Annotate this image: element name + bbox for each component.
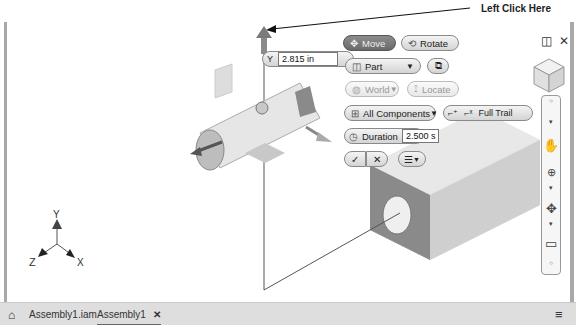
remove-trail-icon[interactable]: ⌐ˣ (464, 108, 472, 118)
tab-assembly1[interactable]: Assembly1 ✕ (97, 306, 161, 325)
panel-icon[interactable]: ◫ (541, 34, 552, 48)
world-dropdown[interactable]: ◍ World ▼ (345, 81, 399, 97)
components-dropdown[interactable]: ⊞ All Components ▼ (344, 105, 436, 121)
document-tab-bar: ⌂ Assembly1.iam Assembly1 ✕ ≡ (0, 302, 576, 325)
chevron-down-icon: ▼ (406, 62, 414, 71)
add-trail-icon[interactable]: ⌐⁺ (448, 108, 458, 118)
pan-icon[interactable]: ✋ (542, 138, 560, 153)
zoom-icon[interactable]: ⊕ (542, 166, 560, 179)
close-icon[interactable]: ✕ (559, 34, 569, 48)
chevron-down-icon[interactable]: ▾ (542, 220, 560, 228)
svg-text:Y: Y (53, 209, 60, 220)
select-other-button[interactable]: ⧉ (427, 58, 449, 74)
window-controls: ◫ ✕ (541, 34, 569, 48)
clock-icon: ◷ (349, 131, 358, 142)
axis-label: Y (267, 54, 273, 64)
navigation-bar: ○ ▾ ✋ ⊕ ▾ ✥ ▾ ▭ ○ (541, 95, 561, 275)
3d-scene: Y Z X (0, 0, 576, 325)
close-tab-icon[interactable]: ✕ (153, 309, 161, 320)
world-icon: ◍ (352, 84, 361, 95)
x-drag-arrow[interactable] (306, 127, 332, 142)
orbit-icon[interactable]: ✥ (542, 201, 560, 216)
callout-arrow (272, 8, 470, 29)
trail-group: ⌐⁺ ⌐ˣ Full Trail (443, 105, 533, 121)
cancel-button[interactable]: ✕ (366, 151, 388, 167)
rotate-icon: ⟲ (408, 38, 416, 49)
options-dropdown[interactable]: ☰▼ (398, 151, 426, 167)
check-icon: ✓ (351, 154, 359, 165)
move-icon: ✥ (350, 38, 358, 49)
part-dropdown[interactable]: ◫ Part ▼ (345, 58, 421, 74)
viewcube[interactable] (531, 57, 567, 95)
home-icon[interactable]: ⌂ (8, 306, 15, 324)
svg-text:X: X (77, 257, 84, 268)
navbar-options-icon[interactable]: ○ (547, 98, 555, 104)
locate-icon: ⟟ (414, 83, 418, 95)
hamburger-icon[interactable]: ≡ (555, 306, 563, 324)
rotate-button[interactable]: ⟲ Rotate (401, 35, 459, 51)
select-icon: ⧉ (435, 60, 442, 72)
trail-dropdown[interactable]: Full Trail (478, 108, 512, 118)
y-offset-input[interactable]: 2.815 in (278, 52, 338, 66)
chevron-down-icon[interactable]: ▾ (542, 118, 560, 126)
part-icon: ◫ (352, 61, 361, 72)
move-button[interactable]: ✥ Move (343, 35, 396, 51)
axis-triad: Y Z X (29, 209, 84, 268)
coordinate-input-group: Y 2.815 in (262, 51, 354, 67)
chevron-down-icon: ▼ (413, 156, 420, 163)
chevron-down-icon: ▼ (390, 85, 398, 94)
tab-assembly1-iam[interactable]: Assembly1.iam (29, 306, 97, 324)
chevron-down-icon[interactable]: ▾ (542, 184, 560, 192)
navbar-resize-icon[interactable]: ○ (547, 260, 555, 266)
ok-button[interactable]: ✓ (344, 151, 366, 167)
svg-text:Z: Z (29, 256, 36, 268)
duration-group: ◷ Duration 2.500 s (344, 128, 424, 144)
list-icon: ☰ (404, 154, 413, 165)
look-at-icon[interactable]: ▭ (542, 236, 560, 251)
components-icon: ⊞ (351, 108, 359, 119)
duration-input[interactable]: 2.500 s (402, 129, 440, 143)
locate-button[interactable]: ⟟ Locate (407, 81, 459, 97)
close-icon: ✕ (373, 154, 381, 165)
chevron-down-icon: ▼ (430, 109, 438, 118)
